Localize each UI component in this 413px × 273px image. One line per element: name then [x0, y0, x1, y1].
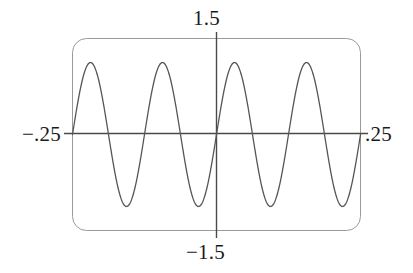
y-min-label: −1.5	[186, 242, 225, 263]
y-max-label: 1.5	[193, 8, 220, 29]
graph-canvas	[0, 0, 413, 273]
x-min-label: −.25	[22, 124, 61, 145]
x-max-label: .25	[365, 124, 392, 145]
graph-screenshot: 1.5 −1.5 −.25 .25	[0, 0, 413, 273]
